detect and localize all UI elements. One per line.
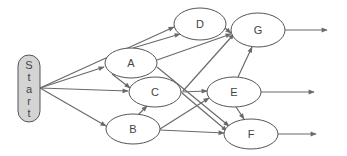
- start-label-letter: r: [27, 95, 31, 107]
- node-label: F: [248, 128, 255, 140]
- edge-e-to-g: [238, 47, 252, 77]
- edge-c-to-e: [181, 91, 207, 92]
- edges-layer: [40, 27, 327, 134]
- node-b: B: [106, 114, 160, 144]
- node-c: C: [129, 77, 181, 107]
- edge-e-to-f: [236, 107, 244, 119]
- node-e: E: [207, 77, 261, 107]
- start-label-letter: S: [25, 59, 32, 71]
- node-f: F: [224, 119, 278, 149]
- start-node: Start: [18, 55, 40, 122]
- node-label: G: [254, 24, 263, 36]
- node-label: B: [129, 123, 136, 135]
- node-d: D: [174, 8, 226, 40]
- nodes-layer: DACBGEF: [105, 8, 285, 149]
- edge-d-to-g: [225, 28, 231, 33]
- start-label-letter: t: [27, 107, 30, 119]
- start-label-letter: a: [26, 83, 33, 95]
- edge-start-to-c: [40, 88, 128, 91]
- node-label: E: [230, 86, 237, 98]
- node-label: C: [151, 86, 159, 98]
- edge-start-to-b: [40, 88, 106, 126]
- network-diagram: DACBGEF Start: [0, 0, 347, 156]
- edge-b-to-c: [138, 106, 147, 115]
- node-label: D: [196, 18, 204, 30]
- edge-start-to-a: [40, 67, 104, 88]
- node-label: A: [127, 57, 135, 69]
- node-g: G: [231, 13, 285, 47]
- start-label-letter: t: [27, 71, 30, 83]
- node-a: A: [105, 48, 157, 78]
- edge-a-to-d: [133, 34, 180, 48]
- edge-b-to-f: [160, 130, 224, 133]
- diagram-canvas: DACBGEF Start: [0, 0, 347, 156]
